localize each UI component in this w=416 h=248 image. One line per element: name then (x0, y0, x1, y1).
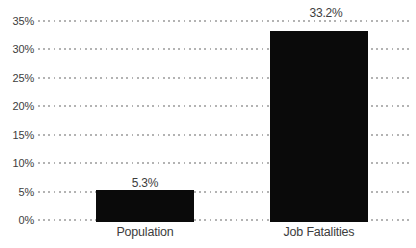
y-tick-label: 20% (4, 100, 34, 112)
y-tick-label: 10% (4, 157, 34, 169)
y-tick-label: 25% (4, 72, 34, 84)
bar-value-label: 33.2% (286, 7, 366, 19)
y-tick-label: 5% (4, 186, 34, 198)
bar-job-fatalities (270, 31, 368, 222)
x-category-label: Population (75, 226, 215, 238)
bar-chart: 0%5%10%15%20%25%30%35%5.3%Population33.2… (0, 0, 416, 248)
y-tick-label: 35% (4, 15, 34, 27)
y-tick-label: 15% (4, 129, 34, 141)
bar-population (96, 190, 194, 222)
y-tick-label: 0% (4, 214, 34, 226)
bar-value-label: 5.3% (105, 177, 185, 189)
gridline-35% (38, 20, 412, 22)
x-category-label: Job Fatalities (249, 226, 389, 238)
y-tick-label: 30% (4, 43, 34, 55)
